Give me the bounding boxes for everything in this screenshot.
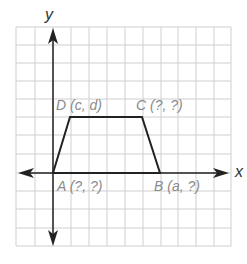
y-axis-label: y — [45, 7, 53, 23]
vertex-label-b: B (a, ?) — [154, 179, 200, 193]
coordinate-plane — [0, 0, 247, 264]
vertex-label-a: A (?, ?) — [57, 179, 102, 193]
x-axis-label: x — [235, 164, 243, 180]
grid — [16, 27, 231, 246]
vertex-label-d: D (c, d) — [56, 98, 102, 112]
vertex-label-c: C (?, ?) — [136, 98, 183, 112]
